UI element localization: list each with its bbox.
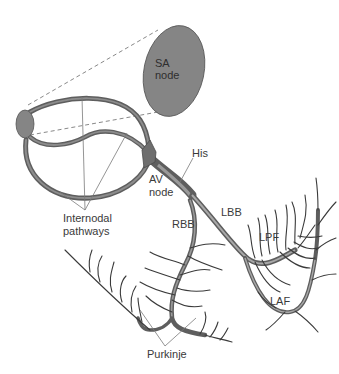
sa-node-label-line2: node <box>155 69 179 81</box>
lbb-label: LBB <box>221 206 242 218</box>
his-label: His <box>192 147 208 159</box>
sa-node-enlarged: SA node <box>135 20 213 122</box>
rbb-label: RBB <box>172 218 195 230</box>
av-node-label-line1: AV <box>149 173 164 185</box>
internodal-label-line2: pathways <box>63 225 110 237</box>
laf-label: LAF <box>270 295 290 307</box>
conduction-diagram: SA node <box>0 0 339 374</box>
left-bundle-branch <box>192 195 318 312</box>
sa-node <box>16 110 34 138</box>
purkinje-label: Purkinje <box>147 348 187 360</box>
av-node-label-line2: node <box>149 186 173 198</box>
lpf-label: LPF <box>259 231 279 243</box>
sa-node-label-line1: SA <box>155 57 170 69</box>
internodal-pathways <box>26 98 150 198</box>
internodal-label-line1: Internodal <box>63 212 112 224</box>
